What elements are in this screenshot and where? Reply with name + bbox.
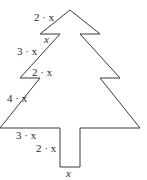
label-trunk-height: 2 · x <box>36 142 57 154</box>
label-tier1-step: x <box>43 33 49 45</box>
label-tier3-slant: 4 · x <box>7 92 28 104</box>
label-tier2-slant: 3 · x <box>17 45 38 57</box>
tree-outline <box>0 10 140 167</box>
label-trunk-width: x <box>65 167 71 179</box>
label-tier3-step: 3 · x <box>16 129 37 141</box>
tree-diagram: 2 · x x 3 · x 2 · x 4 · x 3 · x 2 · x x <box>0 0 147 180</box>
label-tier2-step: 2 · x <box>32 66 53 78</box>
label-top-slant: 2 · x <box>34 11 55 23</box>
